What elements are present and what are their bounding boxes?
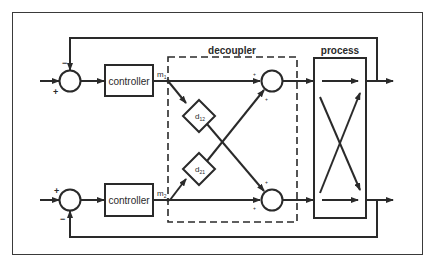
sign-right-bottom-cross: + bbox=[265, 179, 268, 185]
summing-junction-right-top bbox=[262, 71, 283, 92]
m1-label: m1 bbox=[157, 70, 167, 80]
sign-right-top-direct: + bbox=[253, 71, 256, 77]
d12-to-sum-bottom-arrow bbox=[207, 124, 264, 191]
m2-label: m2 bbox=[157, 189, 167, 199]
process-label: process bbox=[321, 45, 360, 56]
controller-top-label: controller bbox=[108, 76, 150, 87]
m1-to-d12-arrow bbox=[168, 81, 186, 103]
sign-right-bottom-direct: + bbox=[253, 205, 256, 211]
d21-to-sum-top-arrow bbox=[207, 90, 264, 161]
summing-junction-right-bottom bbox=[262, 190, 283, 211]
summing-junction-left-top bbox=[60, 71, 81, 92]
summing-junction-left-bottom bbox=[60, 190, 81, 211]
d21-label: d21 bbox=[195, 165, 205, 175]
sign-right-top-cross: + bbox=[265, 96, 268, 102]
sign-feedback-1: − bbox=[62, 58, 67, 68]
decoupler-block-diagram: controller controller decoupler process … bbox=[0, 0, 433, 268]
controller-bottom-label: controller bbox=[108, 195, 150, 206]
sign-feedback-2: − bbox=[60, 214, 65, 224]
m2-branch-node bbox=[166, 198, 170, 202]
decoupler-label: decoupler bbox=[208, 45, 256, 56]
m2-to-d21-arrow bbox=[170, 179, 186, 200]
sign-reference-2: + bbox=[54, 186, 59, 196]
sign-reference-1: + bbox=[53, 87, 58, 97]
m1-branch-node bbox=[166, 79, 170, 83]
d12-label: d12 bbox=[195, 112, 205, 122]
